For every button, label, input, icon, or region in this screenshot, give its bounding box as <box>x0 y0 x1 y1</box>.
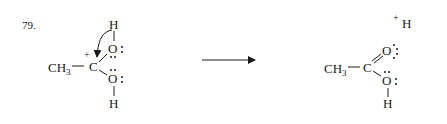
product-c-o-single-bond <box>373 71 381 76</box>
product-c-o-double-bond-1 <box>372 54 381 61</box>
reactant-c-o-top-bond <box>99 54 107 62</box>
curved-electron-arrow <box>97 30 112 57</box>
bonds-and-arrows <box>0 0 447 124</box>
product-c-o-double-bond-2 <box>374 56 383 63</box>
reactant-c-o-bottom-bond <box>99 70 107 75</box>
